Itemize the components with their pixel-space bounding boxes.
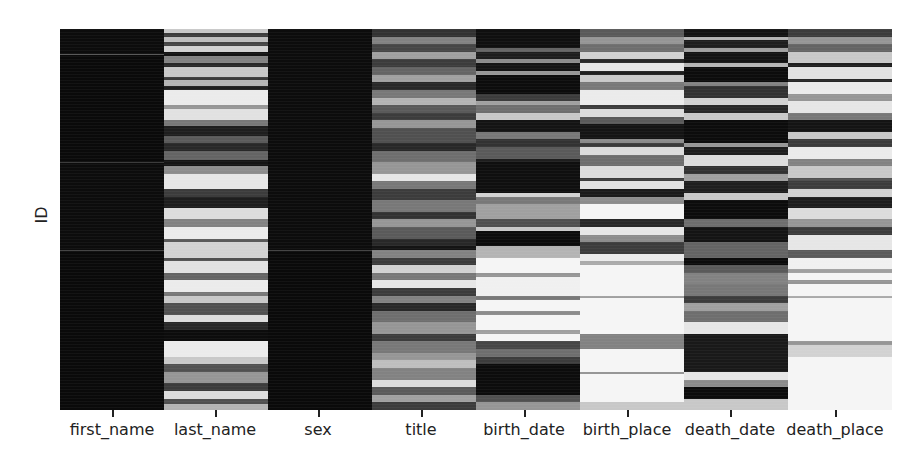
x-tick-mark bbox=[318, 410, 320, 417]
heatmap-column-fill bbox=[268, 29, 372, 410]
heatmap-column-last-name bbox=[164, 29, 268, 410]
x-tick-mark bbox=[215, 410, 217, 417]
heatmap-column-fill bbox=[476, 29, 580, 410]
heatmap-column-birth-place bbox=[580, 29, 684, 410]
heatmap-column-title bbox=[372, 29, 476, 410]
x-tick-label-death-place: death_place bbox=[775, 420, 895, 439]
missing-value-matrix-figure: ID first_name last_name sex title birth_… bbox=[0, 0, 924, 457]
x-tick-label-death-date: death_date bbox=[670, 420, 790, 439]
heatmap-column-fill bbox=[684, 29, 788, 410]
x-tick-label-first-name: first_name bbox=[52, 420, 172, 439]
x-tick-label-last-name: last_name bbox=[155, 420, 275, 439]
heatmap-column-sex bbox=[268, 29, 372, 410]
heatmap-column-fill bbox=[164, 29, 268, 410]
heatmap-column-fill bbox=[788, 29, 892, 410]
heatmap-column-fill bbox=[372, 29, 476, 410]
heatmap-column-birth-date bbox=[476, 29, 580, 410]
heatmap-column-fill bbox=[60, 29, 164, 410]
x-tick-label-title: title bbox=[361, 420, 481, 439]
heatmap-plot-area bbox=[60, 29, 892, 410]
x-tick-label-sex: sex bbox=[258, 420, 378, 439]
y-axis-label: ID bbox=[27, 200, 57, 230]
x-tick-mark bbox=[112, 410, 114, 417]
x-tick-label-birth-date: birth_date bbox=[464, 420, 584, 439]
x-tick-mark bbox=[730, 410, 732, 417]
heatmap-column-death-place bbox=[788, 29, 892, 410]
x-tick-mark bbox=[524, 410, 526, 417]
x-tick-mark bbox=[835, 410, 837, 417]
heatmap-column-fill bbox=[580, 29, 684, 410]
x-tick-mark bbox=[627, 410, 629, 417]
x-tick-mark bbox=[421, 410, 423, 417]
heatmap-column-death-date bbox=[684, 29, 788, 410]
heatmap-column-first-name bbox=[60, 29, 164, 410]
x-tick-label-birth-place: birth_place bbox=[567, 420, 687, 439]
